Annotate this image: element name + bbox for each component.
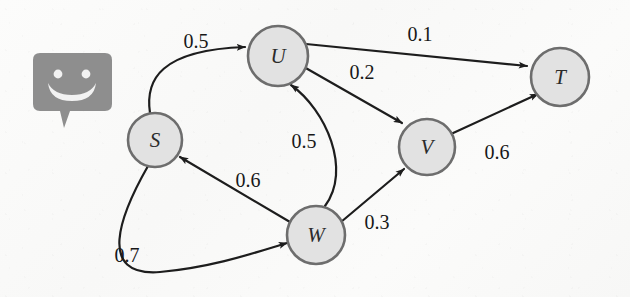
- edge-s-w: [119, 166, 287, 272]
- node-w[interactable]: W: [287, 206, 345, 264]
- weighted-graph-canvas: 0.5 0.1 0.2 0.6 0.5 0.6 0.7 0.3 S U V: [0, 0, 630, 297]
- smiley-right-eye-icon: [82, 70, 91, 79]
- edge-v-t: [451, 94, 538, 134]
- node-label-u: U: [270, 44, 287, 68]
- node-label-t: T: [554, 65, 567, 89]
- edge-weight-v-t: 0.6: [485, 141, 510, 163]
- speech-bubble-shape: [33, 53, 112, 128]
- edge-s-u: [149, 47, 245, 113]
- edge-weight-u-v: 0.2: [350, 61, 375, 83]
- diagram-page: 0.5 0.1 0.2 0.6 0.5 0.6 0.7 0.3 S U V: [0, 0, 630, 297]
- edge-weight-s-w: 0.7: [115, 244, 140, 266]
- edge-weight-w-s: 0.6: [236, 169, 261, 191]
- node-s[interactable]: S: [128, 113, 182, 167]
- speech-bubble-smiley-icon[interactable]: [33, 53, 112, 128]
- edge-u-t: [306, 44, 527, 66]
- node-label-s: S: [150, 128, 161, 152]
- node-label-v: V: [421, 135, 436, 159]
- node-v[interactable]: V: [399, 119, 455, 175]
- edge-weight-u-t: 0.1: [408, 23, 433, 45]
- edge-weight-s-u: 0.5: [184, 30, 209, 52]
- node-u[interactable]: U: [248, 26, 308, 86]
- node-t[interactable]: T: [531, 48, 589, 106]
- smiley-left-eye-icon: [54, 70, 63, 79]
- edge-weight-w-u: 0.5: [292, 130, 317, 152]
- edge-weight-w-v: 0.3: [365, 211, 390, 233]
- node-label-w: W: [307, 223, 327, 247]
